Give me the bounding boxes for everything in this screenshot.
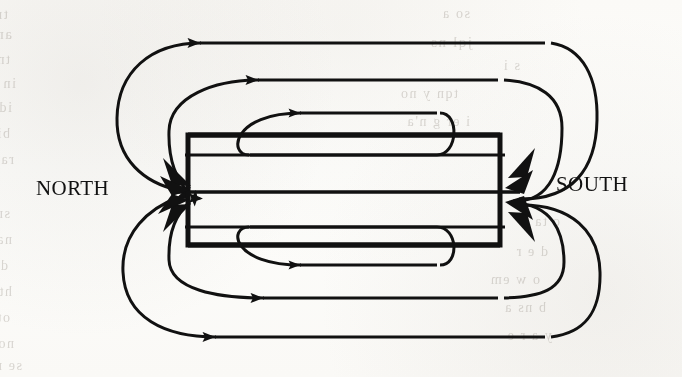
loop-mid-right-sweep — [504, 80, 562, 201]
label-south: SOUTH — [556, 172, 628, 197]
label-north: NORTH — [36, 176, 109, 201]
loop-outer-right-sweep-bottom — [519, 205, 600, 337]
figure-root: tr vj fnn xie ll)d tiv ean r lax enrut b… — [0, 0, 682, 377]
south-exit-arrowheads — [505, 148, 535, 242]
loop-mid-left-sweep-bottom — [169, 202, 264, 298]
